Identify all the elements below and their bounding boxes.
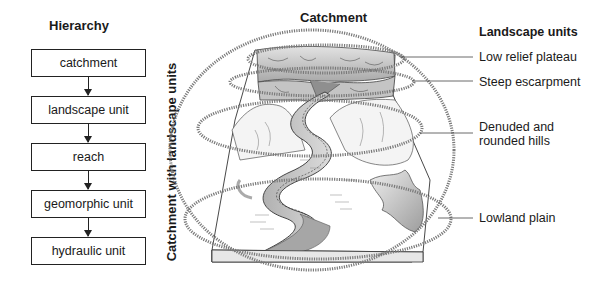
- unit-label-line2: rounded hills: [479, 134, 554, 148]
- catchment-block-diagram: [0, 0, 604, 302]
- unit-label-lowland-plain: Lowland plain: [479, 211, 555, 225]
- unit-label-steep-escarpment: Steep escarpment: [479, 75, 580, 89]
- unit-label-low-relief-plateau: Low relief plateau: [479, 50, 577, 64]
- unit-label-denuded-hills: Denuded and rounded hills: [479, 120, 554, 148]
- unit-label-line1: Denuded and: [479, 120, 554, 134]
- landscape-units-title: Landscape units: [479, 25, 578, 39]
- plateau-shape: [257, 46, 395, 82]
